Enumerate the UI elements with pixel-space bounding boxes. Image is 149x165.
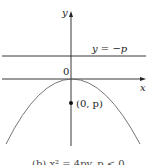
directrix-label: y = −p <box>91 43 128 54</box>
x-axis-arrow-icon <box>140 77 146 81</box>
x-axis-label: x <box>140 82 146 93</box>
focus-point <box>69 101 73 105</box>
parabola-curve <box>6 79 140 144</box>
parabola-diagram: y y = −p x 0 (0, p) (b) x² = 4py, p < 0 <box>0 0 149 165</box>
focus-label: (0, p) <box>76 98 103 109</box>
origin-label: 0 <box>63 66 69 77</box>
caption: (b) x² = 4py, p < 0 <box>32 158 125 165</box>
y-axis-arrow-icon <box>69 11 73 17</box>
y-axis-label: y <box>61 7 68 18</box>
